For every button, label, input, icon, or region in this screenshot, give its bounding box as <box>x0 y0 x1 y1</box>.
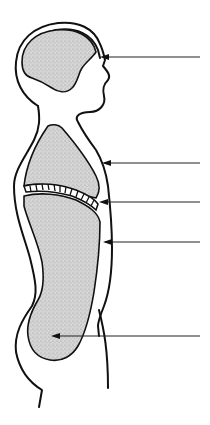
pointer-4 <box>103 239 200 245</box>
arrowhead-icon <box>99 199 108 205</box>
pointer-1 <box>100 54 200 60</box>
body-cavities-diagram <box>0 0 210 425</box>
pointer-3 <box>99 199 200 205</box>
cranial-cavity <box>22 30 96 92</box>
pointer-2 <box>102 160 200 166</box>
body-outline-front-lower <box>99 310 108 388</box>
arrowhead-icon <box>103 239 112 245</box>
diagram-canvas <box>0 0 210 425</box>
